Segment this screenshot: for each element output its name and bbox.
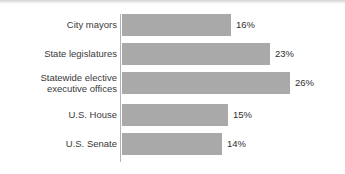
bar-shape: [122, 104, 228, 126]
bar-value-label: 16%: [236, 19, 255, 30]
bar-shape: [122, 43, 270, 65]
bar-category-label: U.S. Senate: [0, 138, 117, 149]
bar-row: Statewide elective executive offices 26%: [0, 72, 345, 94]
bar-category-label: Statewide elective executive offices: [0, 72, 117, 94]
bar-shape: [122, 133, 222, 155]
bar-value-label: 15%: [233, 109, 252, 120]
bar-row: U.S. House 15%: [0, 104, 345, 126]
bar-row: State legislatures 23%: [0, 43, 345, 65]
bar-value-label: 14%: [227, 138, 246, 149]
bar-shape: [122, 14, 231, 36]
bar-value-label: 23%: [275, 48, 294, 59]
bar-category-label: U.S. House: [0, 109, 117, 120]
plot-area: City mayors 16% State legislatures 23% S…: [0, 14, 345, 162]
bar-row: City mayors 16%: [0, 14, 345, 36]
bar-value-label: 26%: [295, 77, 314, 88]
horizontal-bar-chart: City mayors 16% State legislatures 23% S…: [0, 0, 345, 174]
bar-shape: [122, 72, 290, 94]
bar-category-label: State legislatures: [0, 48, 117, 59]
bar-category-label: City mayors: [0, 19, 117, 30]
bar-row: U.S. Senate 14%: [0, 133, 345, 155]
